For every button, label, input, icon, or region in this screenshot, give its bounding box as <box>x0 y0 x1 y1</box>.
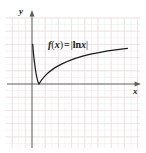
equation-right-bar: | <box>86 39 88 50</box>
x-axis <box>7 82 141 87</box>
plot-area <box>0 0 146 153</box>
y-axis <box>30 10 35 148</box>
equation-ln: ln <box>73 39 81 50</box>
y-axis-label: y <box>19 7 23 16</box>
x-axis-label: x <box>133 87 138 96</box>
grid-minor <box>6 18 140 148</box>
equation-equals: = <box>63 39 71 50</box>
equation-label: f(x)=|lnx| <box>48 40 88 50</box>
graph-figure: y x f(x)=|lnx| <box>0 0 146 153</box>
